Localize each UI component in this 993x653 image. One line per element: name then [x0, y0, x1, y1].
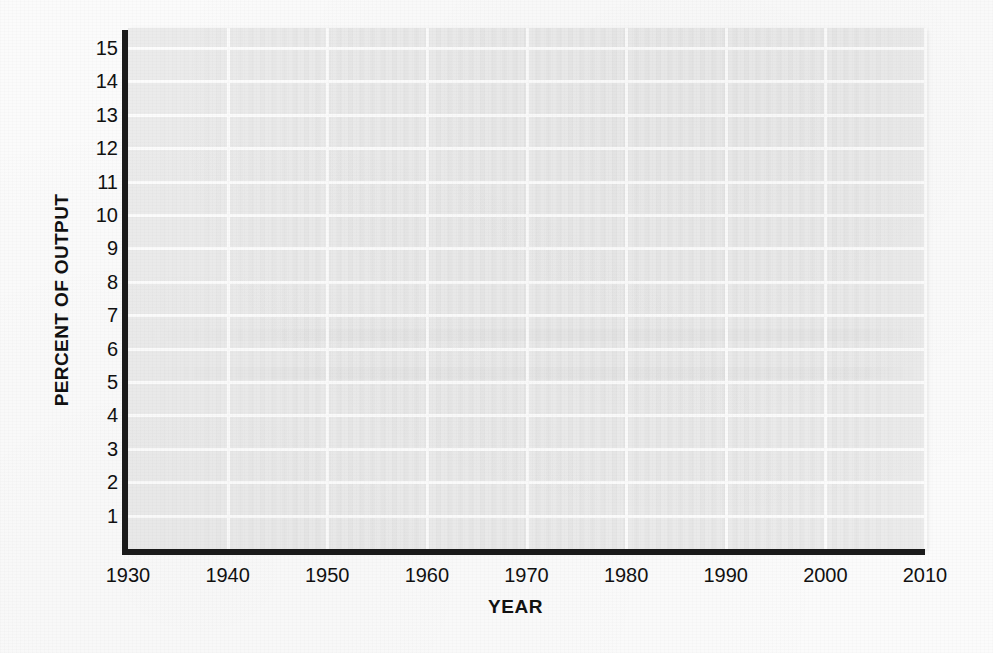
x-tick-label: 1990 [671, 565, 781, 585]
x-tick-label: 1950 [272, 565, 382, 585]
x-tick-label: 2000 [770, 565, 880, 585]
x-axis-title-text: YEAR [488, 596, 543, 617]
x-axis-tick-labels: 193019401950196019701980199020002010 [0, 0, 993, 653]
x-tick-label: 1930 [73, 565, 183, 585]
x-tick-label: 1980 [571, 565, 681, 585]
x-tick-label: 1960 [372, 565, 482, 585]
y-axis-title: PERCENT OF OUTPUT [51, 194, 73, 407]
x-axis-title: YEAR [0, 596, 993, 618]
chart-page: 151413121110987654321 193019401950196019… [0, 0, 993, 653]
y-axis-title-text: PERCENT OF OUTPUT [51, 194, 72, 407]
x-tick-label: 1970 [472, 565, 582, 585]
x-tick-label: 2010 [870, 565, 980, 585]
x-tick-label: 1940 [173, 565, 283, 585]
